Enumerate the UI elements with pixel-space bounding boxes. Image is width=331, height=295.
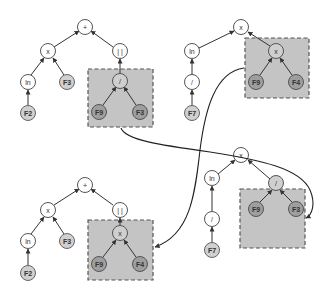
svg-text:x: x xyxy=(118,230,122,237)
inserted-subtree-box xyxy=(240,189,305,248)
leaf-f4: F4 xyxy=(133,257,148,272)
svg-text:F4: F4 xyxy=(136,261,144,268)
node-times: x xyxy=(41,203,56,218)
svg-text:F3: F3 xyxy=(136,109,144,116)
node-ln: ln xyxy=(21,234,36,249)
leaf-f3: F3 xyxy=(133,105,148,120)
node-div: / xyxy=(185,75,200,90)
offspring-tree-right: x ln / F7 / F9 F3 xyxy=(205,148,306,258)
svg-text:F9: F9 xyxy=(95,109,103,116)
leaf-f3: F3 xyxy=(60,75,75,90)
node-plus: + xyxy=(78,20,93,35)
node-times: x xyxy=(113,226,128,241)
node-abs: | | xyxy=(113,44,128,59)
node-times: x xyxy=(234,148,249,163)
node-plus: + xyxy=(78,178,93,193)
svg-text:x: x xyxy=(239,24,243,31)
svg-text:F7: F7 xyxy=(188,110,196,117)
svg-text:x: x xyxy=(46,48,50,55)
leaf-f9: F9 xyxy=(92,257,107,272)
svg-text:F2: F2 xyxy=(24,110,32,117)
node-ln: ln xyxy=(185,44,200,59)
svg-text:/: / xyxy=(119,78,121,85)
svg-text:x: x xyxy=(274,48,278,55)
node-abs: | | xyxy=(113,203,128,218)
svg-text:/: / xyxy=(191,79,193,86)
node-times: x xyxy=(41,44,56,59)
leaf-f3: F3 xyxy=(289,202,304,217)
svg-text:F9: F9 xyxy=(252,206,260,213)
svg-text:ln: ln xyxy=(189,48,195,55)
leaf-f9: F9 xyxy=(249,202,264,217)
svg-text:F9: F9 xyxy=(252,79,260,86)
svg-text:+: + xyxy=(83,24,87,31)
svg-text:/: / xyxy=(275,180,277,187)
svg-text:F2: F2 xyxy=(24,270,32,277)
leaf-f9: F9 xyxy=(249,75,264,90)
crossover-arrow-right-to-left xyxy=(155,68,244,247)
node-ln: ln xyxy=(205,171,220,186)
node-div: / xyxy=(269,176,284,191)
node-div: / xyxy=(205,212,220,227)
node-times: x xyxy=(269,44,284,59)
crossover-diagram: + x | | ln F3 F2 / F9 F3 x ln / F7 x F9 … xyxy=(0,0,331,295)
svg-text:x: x xyxy=(46,207,50,214)
offspring-tree-left: + x | | ln F3 F2 x F9 F4 xyxy=(21,178,154,281)
leaf-f2: F2 xyxy=(21,106,36,121)
leaf-f2: F2 xyxy=(21,266,36,281)
svg-text:+: + xyxy=(83,182,87,189)
svg-text:F4: F4 xyxy=(292,79,300,86)
svg-text:F9: F9 xyxy=(95,261,103,268)
svg-text:F3: F3 xyxy=(63,238,71,245)
svg-text:F3: F3 xyxy=(292,206,300,213)
node-div: / xyxy=(113,74,128,89)
svg-text:ln: ln xyxy=(209,175,215,182)
leaf-f4: F4 xyxy=(289,75,304,90)
svg-text:ln: ln xyxy=(25,79,31,86)
leaf-f9: F9 xyxy=(92,105,107,120)
parent-tree-left: + x | | ln F3 F2 / F9 F3 xyxy=(21,20,154,128)
parent-tree-right: x ln / F7 x F9 F4 xyxy=(185,20,310,121)
node-times: x xyxy=(234,20,249,35)
node-ln: ln xyxy=(21,75,36,90)
svg-text:| |: | | xyxy=(117,48,123,56)
svg-text:| |: | | xyxy=(117,207,123,215)
leaf-f3: F3 xyxy=(60,234,75,249)
svg-text:F7: F7 xyxy=(208,247,216,254)
svg-text:ln: ln xyxy=(25,238,31,245)
leaf-f7: F7 xyxy=(185,106,200,121)
svg-text:/: / xyxy=(211,216,213,223)
svg-text:F3: F3 xyxy=(63,79,71,86)
leaf-f7: F7 xyxy=(205,243,220,258)
